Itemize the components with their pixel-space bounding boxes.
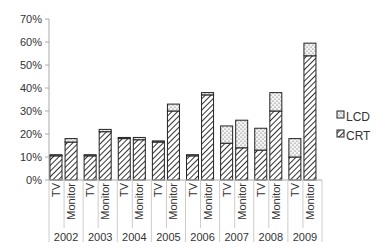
crt-segment xyxy=(167,111,179,180)
x-sub-label: Monitor xyxy=(167,183,179,220)
bar-2005-tv xyxy=(152,141,164,180)
x-sub-label: Monitor xyxy=(236,183,248,220)
crt-segment xyxy=(99,132,111,180)
x-sub-label: TV xyxy=(289,182,301,197)
bar-2003-monitor xyxy=(99,129,111,180)
lcd-segment xyxy=(187,155,199,156)
y-tick-label: 10% xyxy=(20,151,42,163)
legend-item-lcd: LCD xyxy=(337,110,370,124)
lcd-segment xyxy=(167,104,179,111)
x-sub-label: TV xyxy=(255,182,267,197)
bar-2007-monitor xyxy=(236,120,248,180)
lcd-swatch-icon xyxy=(337,111,344,118)
legend-label-lcd: LCD xyxy=(346,110,370,124)
x-group-label: 2007 xyxy=(224,231,248,243)
crt-segment xyxy=(289,157,301,180)
x-sub-label: TV xyxy=(221,182,233,197)
x-sub-label: TV xyxy=(187,182,199,197)
bar-2005-monitor xyxy=(167,104,179,180)
x-axis: TVMonitor2002TVMonitor2003TVMonitor2004T… xyxy=(49,180,322,243)
y-axis: 0%10%20%30%40%50%60%70% xyxy=(20,13,49,186)
y-tick-label: 60% xyxy=(20,36,42,48)
crt-segment xyxy=(65,142,77,180)
stacked-bar-chart: 0%10%20%30%40%50%60%70% TVMonitor2002TVM… xyxy=(0,0,386,250)
x-sub-label: TV xyxy=(84,182,96,197)
legend-label-crt: CRT xyxy=(346,129,371,143)
bar-2008-monitor xyxy=(270,93,282,180)
x-sub-label: TV xyxy=(152,182,164,197)
crt-segment xyxy=(202,95,214,180)
lcd-segment xyxy=(118,137,130,138)
bar-2006-monitor xyxy=(202,93,214,180)
crt-segment xyxy=(255,150,267,180)
bar-2008-tv xyxy=(255,128,267,180)
lcd-segment xyxy=(50,155,62,156)
x-sub-label: Monitor xyxy=(133,183,145,220)
y-tick-label: 40% xyxy=(20,82,42,94)
x-group-label: 2004 xyxy=(122,231,146,243)
lcd-segment xyxy=(202,93,214,95)
crt-segment xyxy=(133,140,145,180)
crt-swatch-icon xyxy=(337,130,344,137)
bar-2002-monitor xyxy=(65,139,77,180)
bar-2007-tv xyxy=(221,126,233,180)
lcd-segment xyxy=(270,93,282,111)
lcd-segment xyxy=(221,126,233,143)
x-group-label: 2002 xyxy=(54,231,78,243)
bar-2009-tv xyxy=(289,139,301,180)
crt-segment xyxy=(187,156,199,180)
lcd-segment xyxy=(304,43,316,56)
crt-segment xyxy=(50,156,62,180)
y-tick-label: 50% xyxy=(20,59,42,71)
legend: LCD CRT xyxy=(337,110,371,143)
bar-2009-monitor xyxy=(304,43,316,180)
x-sub-label: Monitor xyxy=(65,183,77,220)
x-sub-label: TV xyxy=(118,182,130,197)
crt-segment xyxy=(84,156,96,180)
crt-segment xyxy=(221,143,233,180)
y-tick-label: 30% xyxy=(20,105,42,117)
y-tick-label: 0% xyxy=(26,174,42,186)
crt-segment xyxy=(152,142,164,180)
y-tick-label: 20% xyxy=(20,128,42,140)
lcd-segment xyxy=(152,141,164,142)
x-sub-label: Monitor xyxy=(202,183,214,220)
legend-item-crt: CRT xyxy=(337,129,371,143)
x-sub-label: Monitor xyxy=(270,183,282,220)
x-sub-label: TV xyxy=(50,182,62,197)
lcd-segment xyxy=(236,120,248,148)
crt-segment xyxy=(118,139,130,180)
x-sub-label: Monitor xyxy=(304,183,316,220)
lcd-segment xyxy=(65,139,77,142)
lcd-segment xyxy=(84,155,96,156)
lcd-segment xyxy=(255,128,267,150)
x-group-label: 2005 xyxy=(156,231,180,243)
crt-segment xyxy=(304,56,316,180)
bar-2006-tv xyxy=(187,155,199,180)
y-tick-label: 70% xyxy=(20,13,42,25)
x-sub-label: Monitor xyxy=(99,183,111,220)
crt-segment xyxy=(270,111,282,180)
x-group-label: 2009 xyxy=(293,231,317,243)
bar-2002-tv xyxy=(50,155,62,180)
lcd-segment xyxy=(289,139,301,157)
x-group-label: 2003 xyxy=(88,231,112,243)
bar-2003-tv xyxy=(84,155,96,180)
bar-2004-monitor xyxy=(133,137,145,180)
lcd-segment xyxy=(99,129,111,131)
x-group-label: 2008 xyxy=(259,231,283,243)
x-group-label: 2006 xyxy=(190,231,214,243)
bar-2004-tv xyxy=(118,137,130,180)
bars xyxy=(50,43,316,180)
crt-segment xyxy=(236,148,248,180)
lcd-segment xyxy=(133,137,145,139)
